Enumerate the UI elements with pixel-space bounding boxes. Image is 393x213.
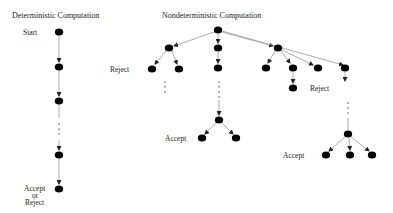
nondeterministic-edges bbox=[155, 31, 369, 151]
node bbox=[214, 44, 222, 51]
nondeterministic-title: Nondeterministic Computation bbox=[162, 11, 261, 20]
diagram-canvas: Deterministic Computation Nondeterminist… bbox=[0, 0, 393, 213]
node bbox=[262, 64, 270, 71]
reject-label-right: Reject bbox=[310, 84, 330, 93]
reject-label: Reject bbox=[25, 198, 45, 207]
node bbox=[289, 64, 297, 71]
node-start bbox=[55, 28, 63, 35]
node bbox=[175, 65, 183, 72]
node-accept bbox=[322, 151, 330, 158]
node-accept bbox=[198, 134, 206, 141]
node bbox=[55, 63, 63, 70]
node bbox=[346, 151, 354, 158]
start-label: Start bbox=[23, 28, 38, 37]
node-end bbox=[55, 185, 63, 192]
node bbox=[341, 64, 349, 71]
deterministic-title: Deterministic Computation bbox=[12, 11, 99, 20]
node bbox=[165, 44, 173, 51]
node bbox=[214, 64, 222, 71]
node bbox=[368, 151, 376, 158]
accept-label-middle: Accept bbox=[165, 134, 187, 143]
computation-diagram: Deterministic Computation Nondeterminist… bbox=[0, 0, 393, 213]
reject-label-left: Reject bbox=[110, 65, 130, 74]
node bbox=[314, 64, 322, 71]
node-reject bbox=[289, 84, 297, 91]
node bbox=[55, 97, 63, 104]
node bbox=[232, 134, 240, 141]
deterministic-dots bbox=[58, 123, 59, 134]
node bbox=[215, 116, 223, 123]
node-root bbox=[214, 26, 222, 33]
node-reject bbox=[148, 65, 156, 72]
node bbox=[55, 151, 63, 158]
node bbox=[274, 44, 282, 51]
accept-label-right: Accept bbox=[283, 151, 305, 160]
node bbox=[344, 130, 352, 137]
